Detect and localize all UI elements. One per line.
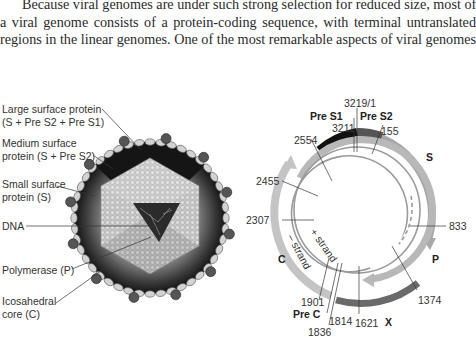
pos-2307: 2307 xyxy=(246,214,269,226)
label-polymerase: Polymerase (P) xyxy=(2,264,74,277)
label-pre-s2: Pre S2 xyxy=(360,110,393,122)
pos-3219: 3219/1 xyxy=(344,97,376,109)
pos-1374: 1374 xyxy=(418,294,441,306)
pos-1814: 1814 xyxy=(329,315,352,327)
pos-2455: 2455 xyxy=(256,175,279,187)
label-p: P xyxy=(432,253,439,265)
pos-1901: 1901 xyxy=(301,296,324,308)
label-s: S xyxy=(426,151,433,163)
label-dna: DNA xyxy=(2,220,24,233)
minus-strand-line xyxy=(294,147,420,273)
label-large-surface-protein: Large surface protein (S + Pre S2 + Pre … xyxy=(2,103,104,128)
c-gene-arc xyxy=(274,163,331,296)
label-c: C xyxy=(278,253,286,265)
virion-illustration xyxy=(0,0,476,338)
pos-3211: 3211 xyxy=(332,122,355,134)
pos-155: 155 xyxy=(381,125,399,137)
pre-s2-arc xyxy=(357,132,382,136)
label-pre-c: Pre C xyxy=(293,308,320,320)
label-pre-s1: Pre S1 xyxy=(310,110,343,122)
pos-1621: 1621 xyxy=(355,317,378,329)
p-arrow-icon xyxy=(362,273,374,287)
plus-strand-line xyxy=(292,156,408,272)
x-gene-arc xyxy=(336,283,418,303)
label-medium-surface-protein: Medium surface protein (S + Pre S2) xyxy=(2,137,95,162)
label-x: X xyxy=(385,316,392,328)
pos-833: 833 xyxy=(449,220,467,232)
label-icosahedral-core: Icosahedral core (C) xyxy=(2,295,56,320)
label-small-surface-protein: Small surface protein (S) xyxy=(2,178,66,203)
pos-2554: 2554 xyxy=(294,134,317,146)
pos-1836: 1836 xyxy=(308,326,331,338)
